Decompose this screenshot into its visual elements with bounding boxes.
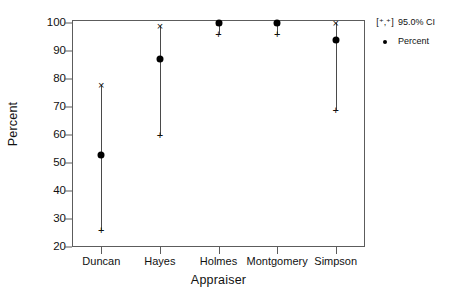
y-tick-label: 60 bbox=[24, 129, 66, 141]
ci-line-hayes bbox=[160, 26, 161, 135]
y-tick-mark bbox=[64, 23, 72, 24]
y-tick-mark bbox=[64, 79, 72, 80]
percent-point-holmes bbox=[215, 20, 222, 27]
chart-legend: [⁺,⁺] 95.0% CI Percent bbox=[372, 18, 451, 56]
y-tick-label: 70 bbox=[24, 101, 66, 113]
y-tick-label: 40 bbox=[24, 185, 66, 197]
y-tick-label: 90 bbox=[24, 45, 66, 57]
plot-area bbox=[72, 20, 365, 247]
y-tick-mark bbox=[64, 107, 72, 108]
x-tick-label-hayes: Hayes bbox=[144, 256, 175, 267]
ci-lower-plus-icon-duncan bbox=[98, 225, 104, 236]
y-tick-mark bbox=[64, 135, 72, 136]
y-tick-mark bbox=[64, 219, 72, 220]
ci-lower-plus-icon-montgomery bbox=[274, 29, 280, 40]
percent-point-hayes bbox=[156, 56, 163, 63]
legend-item-ci: [⁺,⁺] 95.0% CI bbox=[372, 18, 451, 28]
ci-lower-plus-icon-simpson bbox=[332, 104, 338, 115]
ci-lower-plus-icon-holmes bbox=[215, 29, 221, 40]
x-tick-mark bbox=[101, 247, 102, 254]
y-tick-label: 20 bbox=[24, 241, 66, 253]
x-tick-mark bbox=[160, 247, 161, 254]
percent-point-simpson bbox=[332, 36, 339, 43]
y-axis-title: Percent bbox=[2, 0, 24, 247]
y-tick-mark bbox=[64, 247, 72, 248]
y-axis-title-label: Percent bbox=[6, 101, 20, 145]
interval-plot-chart: Percent 2030405060708090100 DuncanHayesH… bbox=[0, 0, 451, 296]
y-tick-mark bbox=[64, 191, 72, 192]
y-tick-label: 80 bbox=[24, 73, 66, 85]
x-tick-label-simpson: Simpson bbox=[314, 256, 357, 267]
x-tick-label-holmes: Holmes bbox=[200, 256, 237, 267]
ci-lower-plus-icon-hayes bbox=[157, 130, 163, 141]
legend-item-percent: Percent bbox=[372, 37, 451, 47]
ci-upper-cross-icon-simpson bbox=[332, 18, 338, 29]
x-tick-mark bbox=[219, 247, 220, 254]
percent-point-duncan bbox=[98, 151, 105, 158]
x-axis-title: Appraiser bbox=[72, 273, 365, 287]
legend-label-ci: 95.0% CI bbox=[398, 18, 435, 28]
ci-upper-cross-icon-duncan bbox=[98, 79, 104, 90]
x-tick-label-montgomery: Montgomery bbox=[247, 256, 308, 267]
y-tick-label: 100 bbox=[24, 17, 66, 29]
y-tick-mark bbox=[64, 163, 72, 164]
y-tick-label: 50 bbox=[24, 157, 66, 169]
percent-point-montgomery bbox=[274, 20, 281, 27]
x-tick-label-duncan: Duncan bbox=[82, 256, 120, 267]
legend-label-percent: Percent bbox=[398, 37, 429, 47]
ci-upper-cross-icon-hayes bbox=[157, 20, 163, 31]
x-axis-title-label: Appraiser bbox=[191, 273, 246, 287]
y-tick-label: 30 bbox=[24, 213, 66, 225]
filled-circle-icon bbox=[372, 40, 398, 44]
y-tick-mark bbox=[64, 51, 72, 52]
x-tick-mark bbox=[277, 247, 278, 254]
ci-bracket-icon: [⁺,⁺] bbox=[372, 18, 398, 28]
x-tick-mark bbox=[336, 247, 337, 254]
